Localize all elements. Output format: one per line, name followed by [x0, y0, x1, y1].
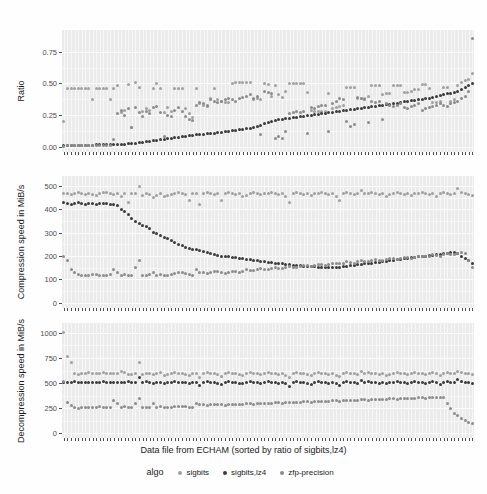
gridline-vertical — [329, 176, 330, 308]
xtick-mark — [444, 152, 445, 155]
gridline-vertical — [354, 30, 355, 152]
xtick-mark — [383, 438, 384, 441]
data-point — [70, 361, 73, 364]
data-point — [424, 83, 427, 86]
data-point — [134, 266, 137, 269]
ytick-label: 0.00 — [42, 143, 57, 152]
data-point — [138, 376, 141, 379]
gridline-vertical — [465, 176, 466, 308]
data-point — [155, 274, 158, 277]
gridline-vertical — [322, 30, 323, 152]
data-point — [428, 193, 431, 196]
xtick-mark — [386, 308, 387, 311]
data-point — [399, 397, 402, 400]
xtick-mark — [218, 308, 219, 311]
data-point — [159, 273, 162, 276]
xtick-mark — [307, 438, 308, 441]
data-point — [234, 193, 237, 196]
data-point — [195, 192, 198, 195]
gridline-vertical — [189, 323, 190, 438]
data-point — [134, 106, 137, 109]
data-point — [424, 373, 427, 376]
xtick-mark — [239, 152, 240, 155]
xtick-mark — [376, 438, 377, 441]
xtick-mark — [408, 152, 409, 155]
data-point — [127, 380, 130, 383]
xtick-mark — [196, 308, 197, 311]
data-point — [338, 384, 341, 387]
data-point — [435, 254, 438, 257]
data-point — [270, 381, 273, 384]
gridline-vertical — [132, 176, 133, 308]
data-point — [342, 98, 345, 101]
data-point — [77, 381, 80, 384]
data-point — [428, 87, 431, 90]
xtick-mark — [164, 438, 165, 441]
gridline-vertical — [232, 176, 233, 308]
xtick-mark — [404, 438, 405, 441]
xtick-mark — [175, 152, 176, 155]
data-point — [292, 266, 295, 269]
gridline-vertical — [132, 30, 133, 152]
data-point — [342, 104, 345, 107]
data-point — [453, 372, 456, 375]
xtick-mark — [469, 152, 470, 155]
data-point — [435, 372, 438, 375]
gridline-vertical — [290, 323, 291, 438]
xtick-mark — [372, 152, 373, 155]
ytick-label: 250 — [44, 404, 57, 413]
data-point — [249, 192, 252, 195]
xtick-mark — [322, 308, 323, 311]
data-point — [327, 373, 330, 376]
legend-item-sigbits-lz4[interactable]: sigbits,lz4 — [223, 468, 266, 477]
data-point — [428, 396, 431, 399]
data-point — [267, 261, 270, 264]
data-point — [84, 203, 87, 206]
data-point — [116, 143, 119, 146]
data-point — [202, 372, 205, 375]
xtick-mark — [204, 152, 205, 155]
xtick-mark — [297, 308, 298, 311]
xtick-mark — [465, 308, 466, 311]
xtick-mark — [64, 438, 65, 441]
xtick-mark — [146, 438, 147, 441]
xtick-mark — [347, 152, 348, 155]
data-point — [464, 79, 467, 82]
legend-label: sigbits,lz4 — [231, 468, 266, 477]
legend-marker-icon — [223, 471, 227, 475]
xtick-mark — [300, 152, 301, 155]
gridline-vertical — [89, 176, 90, 308]
data-point — [263, 82, 266, 85]
legend-item-sigbits[interactable]: sigbits — [178, 468, 209, 477]
data-point — [227, 403, 230, 406]
data-point — [105, 202, 108, 205]
legend-item-zfp-precision[interactable]: zfp-precision — [280, 468, 333, 477]
xtick-mark — [272, 438, 273, 441]
data-point — [413, 371, 416, 374]
data-point — [396, 371, 399, 374]
data-point — [327, 193, 330, 196]
data-point — [159, 87, 162, 90]
data-point — [331, 399, 334, 402]
data-point — [177, 106, 180, 109]
data-point — [456, 90, 459, 93]
gridline-vertical — [96, 30, 97, 152]
xtick-mark — [419, 152, 420, 155]
gridline-vertical — [350, 176, 351, 308]
gridline-vertical — [164, 323, 165, 438]
data-point — [102, 144, 105, 147]
data-point — [464, 86, 467, 89]
xtick-mark — [279, 308, 280, 311]
data-point — [403, 106, 406, 109]
data-point — [234, 100, 237, 103]
xtick-mark — [171, 438, 172, 441]
data-point — [446, 192, 449, 195]
data-point — [145, 372, 148, 375]
xtick-mark — [433, 438, 434, 441]
gridline-vertical — [67, 30, 68, 152]
data-point — [202, 403, 205, 406]
xtick-mark — [186, 438, 187, 441]
gridline-vertical — [293, 176, 294, 308]
xtick-mark — [189, 152, 190, 155]
xtick-mark — [110, 152, 111, 155]
